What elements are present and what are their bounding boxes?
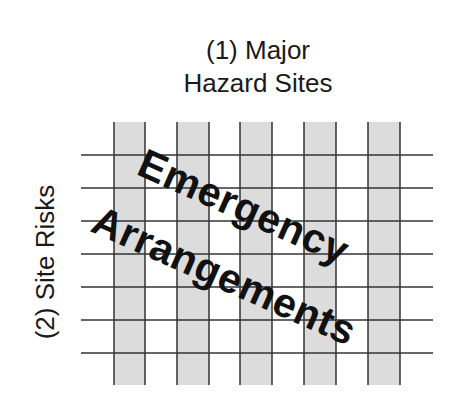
diagram-canvas: (1) Major Hazard Sites (2) Site Risks Em…: [0, 0, 460, 408]
